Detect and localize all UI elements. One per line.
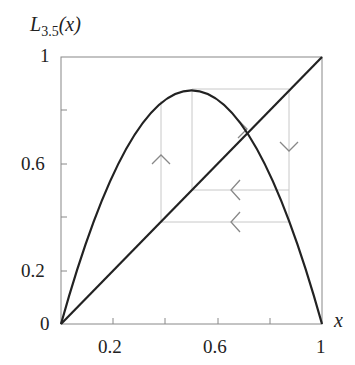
- y-tick-0.2: 0.2: [21, 261, 45, 280]
- y-tick-0: 0: [40, 314, 50, 333]
- x-axis-label: x: [334, 310, 343, 330]
- arrow-icons: [152, 120, 298, 232]
- x-tick-0.2: 0.2: [98, 337, 122, 356]
- y-tick-1: 1: [40, 46, 50, 65]
- y-axis-label: L3.5(x): [30, 14, 81, 39]
- y-tick-0.6: 0.6: [21, 154, 45, 173]
- x-tick-1: 1: [316, 337, 326, 356]
- x-tick-0.6: 0.6: [203, 337, 227, 356]
- cobweb-plot: [0, 0, 355, 365]
